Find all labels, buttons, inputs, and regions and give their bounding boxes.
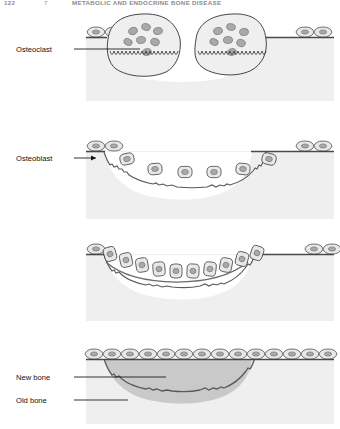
label-new-bone: New bone (16, 373, 50, 382)
lining-cells-left (87, 141, 123, 151)
panel-formation (86, 244, 340, 321)
running-title: METABOLIC AND ENDOCRINE BONE DISEASE (72, 0, 221, 6)
panel-quiescence: New bone Old bone (16, 349, 337, 424)
page-folio: 122 (4, 0, 15, 6)
chapter-mark: 7 (44, 0, 48, 6)
label-osteoblast: Osteoblast (16, 154, 53, 163)
lining-cells-right (296, 141, 332, 151)
lining-cell-row (85, 349, 337, 359)
lining-cells-right (296, 27, 332, 37)
label-old-bone: Old bone (16, 396, 47, 405)
figure-page: 122 7 METABOLIC AND ENDOCRINE BONE DISEA… (0, 0, 340, 429)
panel-reversal: Osteoblast (16, 141, 334, 219)
running-header: 122 7 METABOLIC AND ENDOCRINE BONE DISEA… (0, 0, 340, 9)
osteoclast-1 (107, 14, 180, 76)
label-osteoclast: Osteoclast (16, 45, 53, 54)
lining-cells-left (87, 244, 105, 254)
lining-cells-right (305, 244, 340, 254)
bone-remodeling-figure: Osteoclast (0, 9, 340, 429)
osteoclast-2 (195, 14, 266, 75)
panel-resorption: Osteoclast (16, 14, 334, 101)
